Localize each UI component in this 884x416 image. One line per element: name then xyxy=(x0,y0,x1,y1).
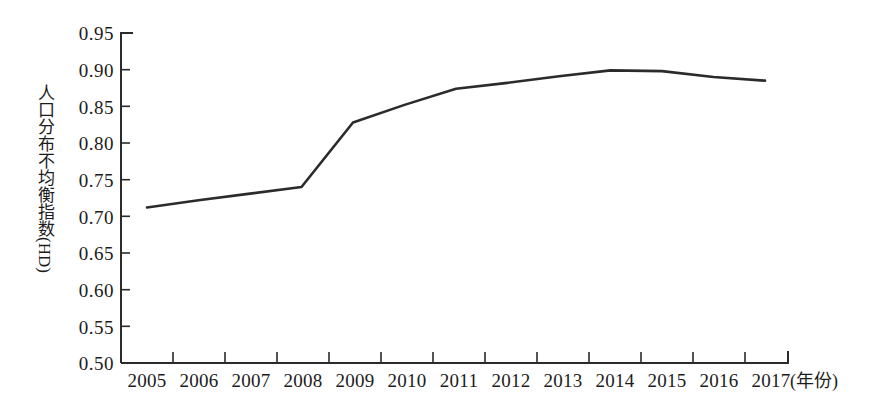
data-series-line xyxy=(147,70,765,207)
x-axis-line xyxy=(121,351,788,363)
y-axis-ticks xyxy=(121,70,130,327)
y-axis-line xyxy=(121,33,133,363)
plot-area xyxy=(0,0,884,416)
x-axis-ticks xyxy=(173,352,745,363)
line-chart: 人口分布不均衡指数(HD) 0.95 0.90 0.85 0.80 0.75 0… xyxy=(0,0,884,416)
